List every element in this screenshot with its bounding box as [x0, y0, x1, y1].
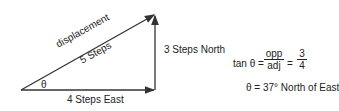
theta-label: θ — [41, 79, 47, 90]
tan-equation-lhs: tan θ = — [233, 58, 264, 69]
frac-den: 4 — [297, 59, 307, 71]
base-label: 4 Steps East — [67, 94, 124, 105]
frac-den: adj — [264, 59, 284, 71]
frac-num: opp — [264, 48, 284, 59]
frac-num: 3 — [297, 48, 307, 59]
north-label: 3 Steps North — [164, 44, 225, 55]
equals-sign: = — [287, 58, 293, 69]
fraction-opp-adj: opp adj — [264, 48, 284, 71]
fraction-3-4: 3 4 — [297, 48, 307, 71]
result-label: θ = 37° North of East — [246, 82, 339, 93]
